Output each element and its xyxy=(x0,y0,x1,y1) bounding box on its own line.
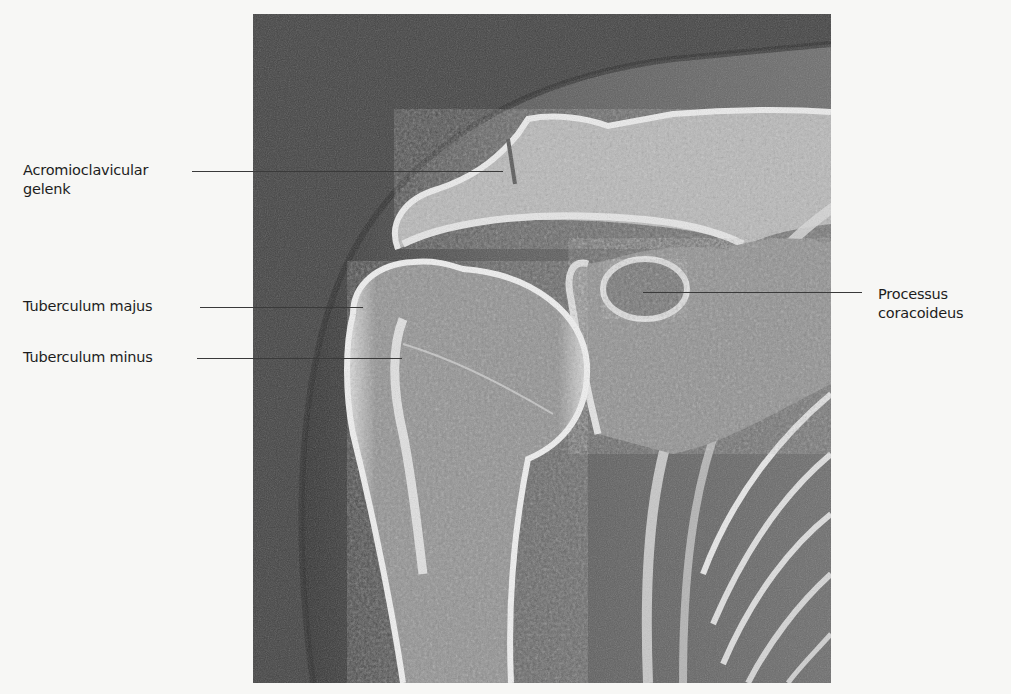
label-processus-coracoideus: Processus coracoideus xyxy=(878,285,963,323)
leader-line-tuberculum-minus xyxy=(197,358,402,359)
label-acromioclavicular-joint: Acromioclavicular gelenk xyxy=(23,161,148,199)
label-tuberculum-minus: Tuberculum minus xyxy=(23,348,153,367)
xray-illustration xyxy=(253,14,831,683)
leader-line-acromioclavicular xyxy=(192,171,503,172)
label-line: coracoideus xyxy=(878,304,963,323)
label-line: Acromioclavicular xyxy=(23,161,148,180)
label-line: Processus xyxy=(878,285,963,304)
label-line: Tuberculum minus xyxy=(23,348,153,367)
shoulder-xray-image xyxy=(253,14,831,683)
leader-line-processus-coracoideus xyxy=(643,292,862,293)
label-tuberculum-majus: Tuberculum majus xyxy=(23,297,152,316)
label-line: Tuberculum majus xyxy=(23,297,152,316)
label-line: gelenk xyxy=(23,180,148,199)
leader-line-tuberculum-majus xyxy=(200,307,363,308)
